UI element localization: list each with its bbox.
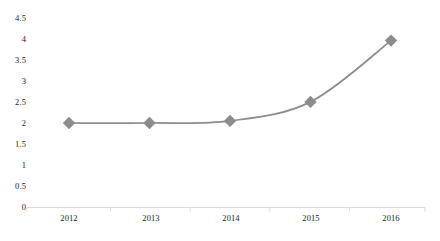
line-chart: 4.5 4 3.5 3 2.5 2 1.5 1 0.5 0 2012 2013 … [0,0,440,241]
x-tick-label: 2014 [222,214,239,223]
x-tick-label: 2015 [302,214,319,223]
x-tick-label: 2013 [142,214,159,223]
x-axis: 2012 2013 2014 2015 2016 [0,0,440,241]
x-tick-label: 2012 [60,214,77,223]
x-tick-label: 2016 [382,214,399,223]
